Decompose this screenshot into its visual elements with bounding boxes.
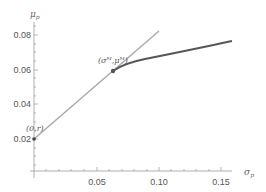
chart-canvas: 0.08 0.06 0.04 0.02 0.05 0.10 0.15 μp σp…: [0, 0, 266, 192]
y-tick-label: 0.04: [13, 99, 31, 109]
x-tick-label: 0.15: [212, 177, 230, 187]
capital-market-line: [34, 31, 159, 139]
x-ticks: [46, 167, 221, 171]
svg-text:μp: μp: [30, 9, 40, 21]
svg-text:σp: σp: [244, 167, 254, 179]
riskfree-point-label: (0,r): [26, 124, 44, 133]
y-axis-label: μp: [30, 9, 40, 21]
tangent-point-label: (σᴹ,μᴹ): [98, 56, 128, 65]
x-tick-label: 0.05: [88, 177, 106, 187]
y-ticks: [34, 26, 38, 165]
x-axis-label: σp: [244, 167, 254, 179]
tangent-point: [111, 69, 115, 73]
y-tick-label: 0.08: [13, 30, 31, 40]
y-tick-label: 0.06: [13, 65, 31, 75]
axes: [30, 22, 232, 178]
riskfree-point: [32, 137, 36, 141]
x-tick-label: 0.10: [150, 177, 168, 187]
y-tick-label: 0.02: [13, 134, 31, 144]
